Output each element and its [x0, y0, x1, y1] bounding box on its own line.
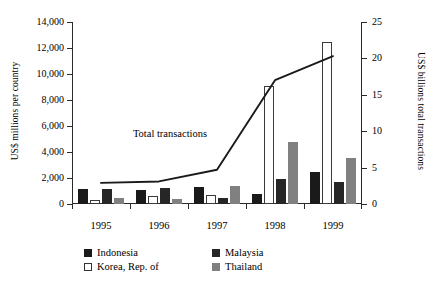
x-tick	[361, 204, 362, 209]
x-tick-label: 1999	[307, 220, 359, 231]
y-tick-label-left: 12,000	[16, 43, 64, 53]
legend-label: Malaysia	[225, 247, 264, 258]
x-tick	[304, 204, 305, 209]
x-tick	[130, 204, 131, 209]
y-tick-right	[362, 22, 367, 23]
plot-area: Total transactions	[72, 22, 362, 204]
y-tick-label-right: 20	[372, 53, 398, 63]
legend-label: Indonesia	[97, 247, 138, 258]
y-tick-label-left: 2,000	[16, 173, 64, 183]
legend-label: Korea, Rep. of	[97, 261, 159, 272]
x-tick-label: 1997	[191, 220, 243, 231]
y-tick-label-left: 0	[16, 199, 64, 209]
legend-item-indonesia: Indonesia	[84, 247, 212, 258]
y-tick-label-right: 25	[372, 17, 398, 27]
y-tick-right	[362, 95, 367, 96]
legend-item-korea-rep-of: Korea, Rep. of	[84, 261, 212, 272]
y-tick-right	[362, 204, 367, 205]
chart-legend: IndonesiaMalaysiaKorea, Rep. ofThailand	[84, 247, 344, 272]
x-tick-label: 1995	[75, 220, 127, 231]
legend-swatch-icon	[84, 249, 92, 257]
y-tick-label-left: 4,000	[16, 147, 64, 157]
y-tick-label-right: 10	[372, 126, 398, 136]
y-axis-title-left: US$ millions per country	[10, 36, 20, 186]
legend-label: Thailand	[225, 261, 262, 272]
legend-item-thailand: Thailand	[212, 261, 340, 272]
y-tick-label-right: 15	[372, 90, 398, 100]
x-tick	[188, 204, 189, 209]
y-axis-title-right: US$ billions total transactions	[416, 36, 426, 186]
y-tick-label-right: 0	[372, 199, 398, 209]
x-tick	[246, 204, 247, 209]
y-tick-label-left: 6,000	[16, 121, 64, 131]
total-transactions-line	[72, 22, 362, 204]
y-tick-label-right: 5	[372, 163, 398, 173]
y-tick-label-left: 8,000	[16, 95, 64, 105]
x-tick-label: 1998	[249, 220, 301, 231]
y-tick-right	[362, 58, 367, 59]
x-tick-label: 1996	[133, 220, 185, 231]
legend-swatch-icon	[212, 263, 220, 271]
legend-swatch-icon	[84, 263, 92, 271]
line-annotation-label: Total transactions	[133, 128, 207, 139]
y-tick-label-left: 14,000	[16, 17, 64, 27]
y-tick-label-left: 10,000	[16, 69, 64, 79]
legend-swatch-icon	[212, 249, 220, 257]
legend-item-malaysia: Malaysia	[212, 247, 340, 258]
x-tick	[72, 204, 73, 209]
y-tick-right	[362, 131, 367, 132]
y-tick-right	[362, 168, 367, 169]
